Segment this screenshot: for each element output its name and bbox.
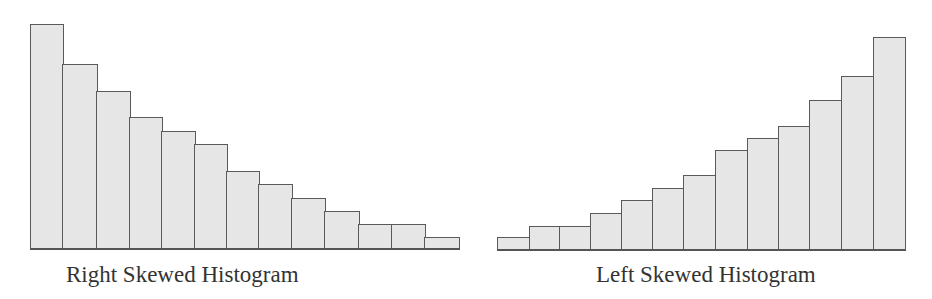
x-axis-baseline [497, 249, 906, 251]
histogram-bar [809, 100, 843, 250]
histogram-bar [778, 126, 811, 250]
chart-title: Left Skewed Histogram [596, 263, 816, 286]
histogram-bar [683, 175, 717, 250]
histogram-bar [873, 37, 906, 250]
left-skewed-histogram: Left Skewed Histogram [0, 0, 932, 299]
histogram-bar [529, 226, 561, 250]
histogram-bar [590, 213, 623, 250]
histogram-bar [715, 150, 749, 250]
histogram-bar [841, 76, 875, 250]
histogram-bar [559, 226, 592, 250]
histogram-bars [0, 0, 932, 299]
histogram-bar [652, 188, 685, 250]
histogram-bar [747, 138, 780, 250]
histogram-bar [621, 200, 654, 250]
